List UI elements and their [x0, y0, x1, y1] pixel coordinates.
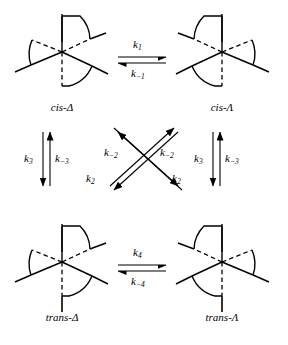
rate-sub: 3: [29, 157, 33, 166]
arrows-right-equilibrium: [213, 132, 220, 186]
arrows-top-equilibrium: [118, 57, 166, 63]
rate-label-cross-upper-right: k−2: [160, 146, 174, 160]
rate-sub: 1: [138, 43, 142, 52]
rate-label-bottom-reverse: k−4: [131, 275, 145, 289]
rate-sub: −3: [60, 157, 69, 166]
isomerization-scheme: cis-Δ cis-Λ trans-Δ trans-Λ k1 k−1 k4 k−…: [0, 0, 288, 345]
rate-label-top-reverse: k−1: [131, 67, 145, 81]
rate-sub: −1: [136, 72, 145, 81]
species-label-cis-delta: cis-Δ: [24, 101, 100, 113]
species-label-trans-lambda: trans-Λ: [178, 311, 266, 323]
structure-cis-delta: [15, 14, 108, 86]
rate-sub: −2: [109, 151, 118, 160]
rate-label-cross-lower-left: k2: [86, 172, 95, 186]
rate-sub: −2: [165, 151, 174, 160]
rate-label-cross-upper-left: k−2: [104, 146, 118, 160]
rate-label-left-down: k3: [24, 152, 33, 166]
rate-label-top-forward: k1: [133, 38, 142, 52]
rate-label-bottom-forward: k4: [133, 246, 142, 260]
rate-sub: −4: [136, 280, 145, 289]
species-label-trans-delta: trans-Δ: [18, 311, 106, 323]
scheme-graphics: [0, 0, 288, 345]
species-label-cis-lambda: cis-Λ: [184, 101, 260, 113]
rate-label-left-up: k−3: [55, 152, 69, 166]
rate-sub: −3: [230, 157, 239, 166]
structure-cis-lambda: [176, 14, 269, 86]
structure-trans-delta: [15, 224, 108, 312]
rate-sub: 4: [138, 251, 142, 260]
arrows-left-equilibrium: [43, 132, 50, 186]
rate-sub: 2: [177, 177, 181, 186]
rate-sub: 2: [91, 177, 95, 186]
rate-label-right-down: k3: [194, 152, 203, 166]
rate-label-cross-lower-right: k2: [172, 172, 181, 186]
structure-trans-lambda: [176, 224, 269, 312]
rate-sub: 3: [199, 157, 203, 166]
arrows-bottom-equilibrium: [118, 265, 166, 271]
rate-label-right-up: k−3: [225, 152, 239, 166]
